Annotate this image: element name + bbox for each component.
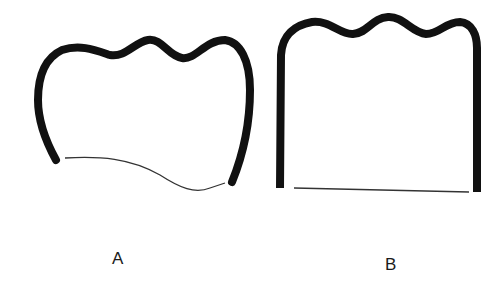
shape-b-thin-bottom-line	[294, 188, 469, 192]
diagram-canvas	[0, 0, 499, 283]
shape-b-thick-outline	[280, 17, 477, 192]
shape-b	[280, 17, 477, 192]
shape-a-thin-bottom-line	[65, 157, 225, 190]
panel-label-b: B	[385, 256, 396, 273]
shape-a-thick-outline	[38, 40, 250, 182]
panel-label-a: A	[112, 250, 123, 267]
shape-a	[38, 40, 250, 190]
diagram-figure: A B	[0, 0, 499, 283]
